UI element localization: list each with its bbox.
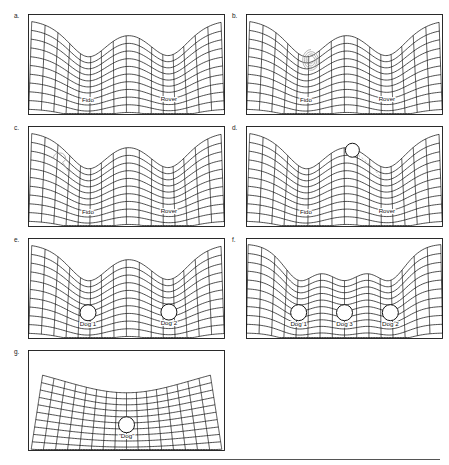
well-ball bbox=[382, 305, 398, 321]
footer-divider bbox=[120, 459, 440, 460]
well-label-dog-2: Dog 2 bbox=[382, 320, 399, 327]
panel-a: FidoRovera. bbox=[28, 14, 225, 115]
well-ball bbox=[161, 304, 177, 320]
panel-label-e: e. bbox=[14, 236, 19, 243]
panel-d-canvas: FidoRover bbox=[246, 126, 443, 227]
panel-g-canvas: "Dog" bbox=[28, 350, 225, 451]
panel-label-f: f. bbox=[232, 236, 236, 243]
panel-label-g: g. bbox=[14, 348, 19, 355]
panel-f: Dog 1Dog 3Dog 2f. bbox=[246, 238, 443, 339]
panel-d: FidoRoverd. bbox=[246, 126, 443, 227]
well-ball bbox=[80, 305, 96, 321]
free-ball bbox=[345, 143, 359, 157]
panel-c: FidoRoverc. bbox=[28, 126, 225, 227]
mesh-col bbox=[368, 274, 369, 338]
well-label-rover: Rover bbox=[379, 207, 396, 214]
well-ball bbox=[291, 305, 307, 321]
well-label-rover: Rover bbox=[161, 207, 178, 214]
well-ball bbox=[119, 417, 135, 433]
panel-g: "Dog"g. bbox=[28, 350, 225, 451]
well-label-dog-1: Dog 1 bbox=[290, 320, 307, 327]
panel-e-canvas: Dog 1Dog 2 bbox=[28, 238, 225, 339]
panel-b-canvas: FidoRover bbox=[246, 14, 443, 115]
panel-label-c: c. bbox=[14, 124, 19, 131]
well-ball bbox=[337, 305, 353, 321]
mesh-col bbox=[320, 274, 321, 338]
panel-e: Dog 1Dog 2e. bbox=[28, 238, 225, 339]
figure-root: FidoRovera.FidoRoverb.FidoRoverc.FidoRov… bbox=[0, 0, 449, 465]
well-label-rover: Rover bbox=[161, 95, 178, 102]
well-label-dog-3: Dog 3 bbox=[336, 320, 353, 327]
well-label-dog-2: Dog 2 bbox=[161, 319, 178, 326]
panel-f-canvas: Dog 1Dog 3Dog 2 bbox=[246, 238, 443, 339]
panel-c-canvas: FidoRover bbox=[28, 126, 225, 227]
well-label-rover: Rover bbox=[379, 95, 396, 102]
mesh-col bbox=[381, 54, 382, 113]
mesh-col bbox=[163, 54, 164, 113]
mesh-col bbox=[163, 166, 164, 225]
panel-a-canvas: FidoRover bbox=[28, 14, 225, 115]
panel-label-b: b. bbox=[232, 12, 237, 19]
panel-label-a: a. bbox=[14, 12, 19, 19]
well-label-dog-1: Dog 1 bbox=[80, 320, 97, 327]
panel-label-d: d. bbox=[232, 124, 237, 131]
well-label-dog: "Dog" bbox=[119, 432, 135, 439]
well-label-fido: Fido bbox=[300, 96, 313, 103]
well-label-fido: Fido bbox=[82, 208, 95, 215]
well-label-fido: Fido bbox=[300, 208, 313, 215]
well-label-fido: Fido bbox=[82, 96, 95, 103]
mesh-col bbox=[381, 166, 382, 225]
panel-b: FidoRoverb. bbox=[246, 14, 443, 115]
